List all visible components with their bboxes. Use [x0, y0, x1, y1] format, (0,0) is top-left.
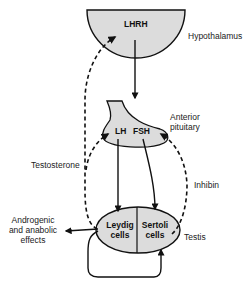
sertoli-cells-line1: Sertoli	[139, 220, 171, 230]
effects-arrow	[66, 229, 98, 231]
hormone-regulation-diagram: LHRH Hypothalamus Anterior pituitary LH …	[0, 0, 248, 286]
testis-label: Testis	[184, 232, 206, 242]
hypothalamus-shape	[87, 10, 185, 58]
anterior-label: Anterior	[170, 112, 200, 122]
leydig-cells-line1: Leydig	[105, 220, 135, 230]
fsh-arrow	[143, 139, 155, 209]
pituitary-label: pituitary	[170, 122, 200, 132]
effects-label-line3: effects	[4, 235, 62, 245]
inhibin-label: Inhibin	[194, 180, 219, 190]
effects-label-line1: Androgenic	[4, 215, 62, 225]
lh-label: LH	[115, 126, 126, 136]
effects-label-line2: and anabolic	[4, 225, 62, 235]
fsh-label: FSH	[133, 126, 150, 136]
hypothalamus-label: Hypothalamus	[188, 31, 242, 41]
sertoli-cells-line2: cells	[139, 230, 171, 240]
lhrh-label: LHRH	[124, 19, 148, 29]
pituitary-shape	[103, 101, 168, 147]
leydig-cells-line2: cells	[105, 230, 135, 240]
testosterone-label: Testosterone	[31, 160, 80, 170]
